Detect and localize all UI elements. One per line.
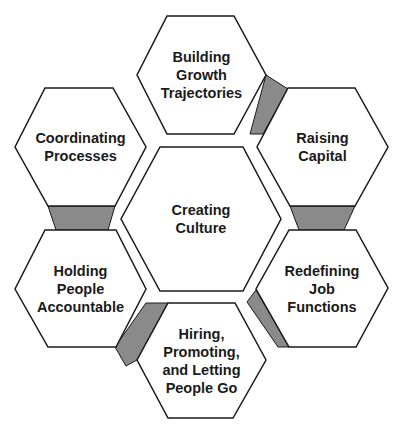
label-center: Creating Culture xyxy=(121,147,281,291)
label-building: Building Growth Trajectories xyxy=(137,16,266,134)
connector-raising-redefining xyxy=(290,206,355,230)
connector-holding-coordinating xyxy=(48,206,115,230)
label-hiring: Hiring, Promoting, and Letting People Go xyxy=(137,303,266,418)
